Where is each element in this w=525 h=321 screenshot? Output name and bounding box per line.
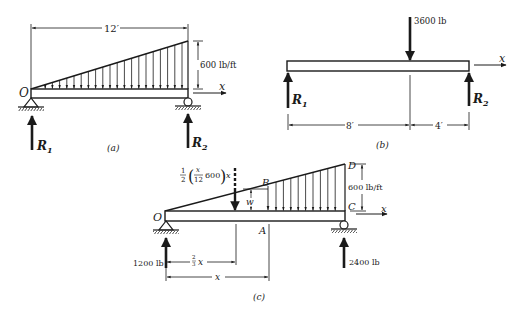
point-load-label: 3600 lb — [414, 16, 447, 26]
beam — [165, 211, 345, 221]
x-axis-label: x — [499, 52, 506, 65]
caption-a: (a) — [107, 143, 120, 153]
svg-text:2: 2 — [192, 254, 196, 260]
span-dimension: 12′ — [31, 23, 188, 89]
right-span-label: 4′ — [435, 121, 443, 131]
caption-c: (c) — [253, 292, 266, 302]
svg-text:1: 1 — [181, 167, 185, 175]
svg-text:2: 2 — [181, 176, 185, 184]
w-dimension: w — [243, 189, 268, 210]
roller-support-icon — [331, 221, 357, 233]
roller-support-icon — [175, 98, 201, 110]
reaction-right-label: 2400 lb — [349, 258, 380, 267]
x-axis-label: x — [381, 203, 387, 214]
reaction-left-label: 1200 lb — [133, 259, 164, 268]
load-label: 600 lb/ft — [200, 60, 237, 70]
svg-text:3: 3 — [192, 261, 196, 267]
reaction-r2-label: R2 — [191, 136, 208, 152]
figure-a: 12′ 600 lb/ft x O — [18, 23, 237, 155]
beam-diagram-figure: 12′ 600 lb/ft x O — [0, 0, 525, 321]
load-magnitude-dimension: 600 lb/ft — [193, 41, 237, 89]
svg-text:x: x — [196, 166, 200, 174]
caption-b: (b) — [376, 140, 389, 150]
span-label: 12′ — [104, 23, 120, 34]
centroid-dimension: 2 3 x — [167, 254, 235, 267]
span-dimension: 8′ 4′ — [288, 75, 469, 131]
reaction-r1-label: R1 — [291, 93, 308, 109]
triangular-load — [31, 41, 188, 89]
svg-text:x: x — [198, 257, 203, 267]
reaction-r1-label: R1 — [36, 139, 53, 155]
resultant-label: 1 2 ( x 12 600 ) x — [180, 166, 231, 186]
figure-b: 3600 lb x R1 R2 8′ 4′ (b) — [287, 16, 506, 150]
origin-label: O — [153, 211, 162, 224]
figure-c: 1 2 ( x 12 600 ) x w 600 lb/ft D C — [133, 160, 387, 302]
origin-label: O — [19, 86, 29, 100]
point-d-label: D — [347, 160, 356, 171]
point-b-label: B — [261, 177, 269, 188]
beam — [287, 61, 469, 71]
svg-text:12: 12 — [194, 176, 203, 184]
svg-text:w: w — [246, 197, 254, 207]
beam — [31, 89, 188, 98]
point-a-label: A — [258, 225, 266, 236]
load-label: 600 lb/ft — [348, 183, 383, 192]
svg-text:x: x — [226, 171, 231, 180]
left-span-label: 8′ — [346, 121, 354, 131]
x-dimension: x — [167, 272, 268, 282]
partial-load-arrows — [276, 167, 335, 211]
svg-text:600: 600 — [205, 171, 220, 180]
svg-text:x: x — [215, 272, 220, 282]
reaction-r2-label: R2 — [472, 92, 489, 108]
x-axis-label: x — [219, 80, 226, 93]
point-c-label: C — [348, 201, 356, 212]
